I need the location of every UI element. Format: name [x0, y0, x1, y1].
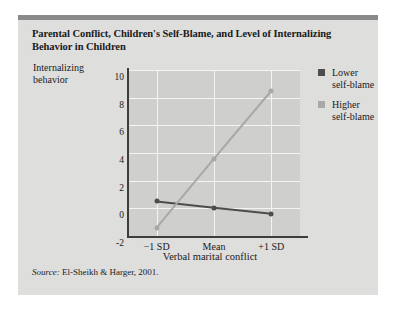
- page-title: Parental Conflict, Children's Self-Blame…: [32, 27, 352, 53]
- legend-swatch-icon: [318, 69, 325, 76]
- card-top-bar: [18, 15, 378, 20]
- legend-label: Lower: [332, 67, 390, 79]
- source-note: Source: El-Sheikh & Harger, 2001.: [32, 267, 159, 277]
- y-tick-label: 2: [102, 183, 124, 193]
- data-point: [212, 205, 217, 210]
- plot-wrapper: 1086420-2 −1 SDMean+1 SD: [128, 63, 300, 239]
- y-tick-label: 6: [102, 127, 124, 137]
- y-tick-label: 0: [102, 210, 124, 220]
- data-point: [269, 88, 274, 93]
- y-tick-label: 4: [102, 155, 124, 165]
- data-point: [154, 225, 159, 230]
- x-axis-label: Verbal marital conflict: [100, 251, 320, 262]
- y-tick-label: 8: [102, 100, 124, 110]
- legend-label: self-blame: [332, 111, 390, 123]
- data-point: [212, 156, 217, 161]
- legend-swatch-icon: [318, 101, 325, 108]
- legend-label: Higher: [332, 99, 390, 111]
- legend-label: self-blame: [332, 79, 390, 91]
- figure-card: Parental Conflict, Children's Self-Blame…: [18, 15, 378, 295]
- series-lines: [128, 70, 300, 236]
- y-axis-ticks: 1086420-2: [100, 70, 124, 236]
- legend-item: Lowerself-blame: [318, 67, 390, 90]
- y-axis-line: [127, 68, 129, 238]
- y-tick-label: -2: [102, 238, 124, 248]
- source-label: Source:: [32, 267, 60, 277]
- x-axis-line: [127, 236, 308, 238]
- source-citation: El-Sheikh & Harger, 2001.: [60, 267, 159, 277]
- chart-legend: Lowerself-blameHigherself-blame: [318, 67, 390, 131]
- plot-area: [128, 70, 300, 236]
- data-point: [154, 199, 159, 204]
- legend-item: Higherself-blame: [318, 99, 390, 122]
- y-tick-label: 10: [102, 72, 124, 82]
- data-point: [269, 211, 274, 216]
